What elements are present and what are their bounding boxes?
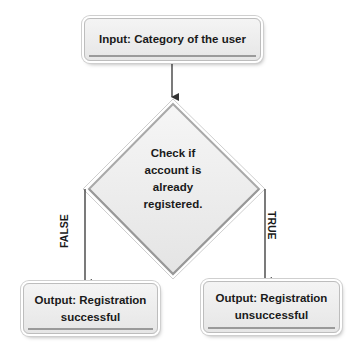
false-branch-label: FALSE <box>58 214 70 248</box>
output-line: successful <box>61 309 120 326</box>
decision-line: registered. <box>128 196 218 213</box>
input-box: Input: Category of the user <box>84 18 261 61</box>
box-shadow-line <box>89 55 256 57</box>
output-line: unsuccessful <box>235 307 309 324</box>
true-branch-label: TRUE <box>266 211 278 240</box>
box-shadow-line <box>208 327 335 329</box>
output-box-unsuccessful: Output: Registration unsuccessful <box>203 281 340 333</box>
decision-line: already <box>128 179 218 196</box>
input-box-label: Input: Category of the user <box>99 31 246 48</box>
box-shadow-line <box>28 328 153 330</box>
decision-line: account is <box>128 162 218 179</box>
output-line: Output: Registration <box>35 292 147 309</box>
output-box-successful: Output: Registration successful <box>23 283 158 334</box>
decision-line: Check if <box>128 145 218 162</box>
output-line: Output: Registration <box>216 290 328 307</box>
decision-text: Check if account is already registered. <box>128 145 218 213</box>
